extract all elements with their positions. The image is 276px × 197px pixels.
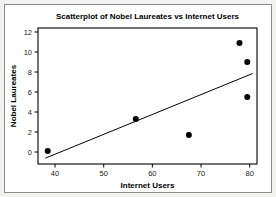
data-point[interactable] xyxy=(133,116,139,122)
y-tick-label: 12 xyxy=(24,28,32,37)
y-tick-label: 6 xyxy=(28,88,32,97)
data-point[interactable] xyxy=(244,59,250,65)
figure-root: Scatterplot of Nobel Laureates vs Intern… xyxy=(0,0,276,197)
regression-line xyxy=(45,74,252,159)
x-tick-label: 80 xyxy=(246,169,254,178)
y-tick-label: 2 xyxy=(28,128,32,137)
y-axis-title: Nobel Laureates xyxy=(9,64,18,127)
plot-content xyxy=(45,40,253,158)
x-tick-label: 70 xyxy=(197,169,205,178)
scatterplot-chart: Scatterplot of Nobel Laureates vs Intern… xyxy=(5,5,271,192)
y-tick-label: 10 xyxy=(24,48,32,57)
x-tick-label: 50 xyxy=(100,169,108,178)
figure-frame: Scatterplot of Nobel Laureates vs Intern… xyxy=(4,4,272,193)
data-point[interactable] xyxy=(236,40,242,46)
chart-title: Scatterplot of Nobel Laureates vs Intern… xyxy=(56,12,240,21)
y-tick-label: 4 xyxy=(28,108,32,117)
plot-frame xyxy=(38,28,257,164)
data-point[interactable] xyxy=(244,94,250,100)
y-tick-label: 0 xyxy=(28,148,32,157)
data-point[interactable] xyxy=(45,148,51,154)
y-tick-label: 8 xyxy=(28,68,32,77)
x-tick-label: 40 xyxy=(51,169,59,178)
x-axis-title: Internet Users xyxy=(121,181,175,190)
x-tick-label: 60 xyxy=(148,169,156,178)
data-point[interactable] xyxy=(186,132,192,138)
